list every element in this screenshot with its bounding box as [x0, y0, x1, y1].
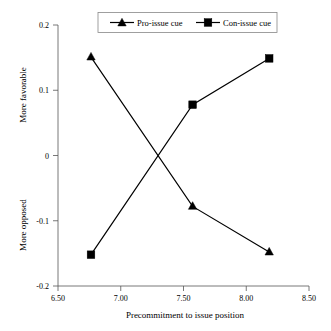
- series-markers-con-issue-cue: [87, 55, 273, 259]
- series-line-con-issue-cue: [91, 58, 269, 254]
- x-tick-label: 6.50: [51, 294, 65, 303]
- chart-legend: Pro-issue cue Con-issue cue: [98, 13, 277, 33]
- y-tick-label: 0.1: [39, 86, 49, 95]
- x-tick-label: 8.00: [239, 294, 253, 303]
- y-tick-label: -0.2: [36, 282, 49, 291]
- y-tick-label: 0.2: [39, 21, 49, 30]
- y-axis-ticks: [53, 25, 58, 286]
- line-chart-svg: 0.2 0.1 0 -0.1 -0.2 6.50 7.00 7.50 8.00 …: [0, 0, 331, 331]
- legend-marker-square: [204, 19, 212, 27]
- x-axis-title: Precommitment to issue position: [126, 310, 245, 320]
- y-tick-label: 0: [45, 152, 49, 161]
- x-tick-label: 7.50: [177, 294, 191, 303]
- legend-label-con-issue-cue: Con-issue cue: [223, 18, 271, 28]
- series-markers-pro-issue-cue: [87, 52, 274, 255]
- x-tick-label: 7.00: [114, 294, 128, 303]
- data-point-marker-square: [87, 251, 95, 259]
- data-point-marker-triangle: [265, 247, 273, 255]
- x-tick-label: 8.50: [302, 294, 316, 303]
- data-point-marker-square: [265, 55, 273, 63]
- legend-label-pro-issue-cue: Pro-issue cue: [137, 18, 183, 28]
- x-axis-ticks: [58, 286, 309, 291]
- y-axis-title-lower: More opposed: [18, 199, 28, 251]
- data-point-marker-square: [189, 101, 197, 109]
- y-axis-title-upper: More favorable: [18, 67, 28, 123]
- y-tick-label: -0.1: [36, 217, 49, 226]
- data-point-marker-triangle: [87, 52, 95, 60]
- series-line-pro-issue-cue: [91, 57, 269, 252]
- chart-figure: 0.2 0.1 0 -0.1 -0.2 6.50 7.00 7.50 8.00 …: [0, 0, 331, 331]
